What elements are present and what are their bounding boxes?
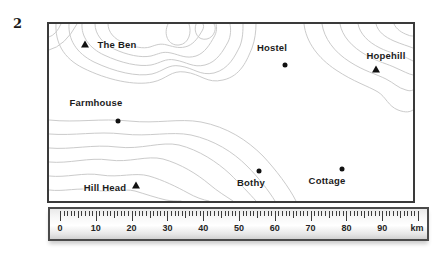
ruler-tick [110,211,111,216]
ruler-tick [268,211,269,216]
ruler-number: 50 [234,223,244,233]
ruler-tick [368,211,369,216]
ruler-number: 80 [341,223,351,233]
site-marker-dot [257,169,262,174]
ruler-unit-label: km [410,223,423,233]
ruler-tick [286,211,287,216]
ruler-tick [289,211,290,216]
ruler-tick [389,211,390,216]
site-marker-triangle [81,41,89,48]
ruler-tick [64,211,65,216]
ruler-tick [235,211,236,216]
ruler-tick [121,211,122,216]
ruler-tick [325,211,326,216]
ruler-tick [160,211,161,216]
ruler-tick [228,211,229,216]
contour-lines [49,24,413,201]
ruler-tick [74,211,75,216]
ruler-tick [314,211,315,216]
ruler-tick [196,211,197,216]
ruler-number: 30 [162,223,172,233]
ruler-tick [200,211,201,216]
ruler-tick [225,211,226,216]
question-number: 2 [13,16,22,31]
ruler-tick [185,211,186,218]
ruler-tick [407,211,408,216]
ruler-tick [178,211,179,216]
ruler-tick [243,211,244,216]
ruler-tick [379,211,380,216]
ruler-tick [103,211,104,216]
ruler-tick [307,211,308,216]
ruler-tick [128,211,129,216]
site-label: Bothy [237,177,265,188]
site-marker-dot [116,119,121,124]
ruler-tick [357,211,358,216]
ruler-tick [153,211,154,216]
ruler-tick [157,211,158,216]
ruler-tick [92,211,93,216]
ruler-number: 0 [57,223,62,233]
ruler-tick [210,211,211,216]
ruler-tick [336,211,337,216]
ruler-tick [99,211,100,216]
site-label: Cottage [309,175,346,186]
site-label: Hill Head [84,182,126,193]
ruler-tick [164,211,165,216]
ruler-tick [150,211,151,218]
ruler-tick [332,211,333,216]
ruler-tick [321,211,322,216]
site-marker-dot [340,167,345,172]
ruler-tick [354,211,355,216]
site-marker-triangle [132,182,140,189]
ruler-tick [182,211,183,216]
site-marker-triangle [372,66,380,73]
ruler-tick [89,211,90,216]
ruler-tick [124,211,125,216]
ruler-tick [142,211,143,216]
ruler-tick [189,211,190,216]
ruler-tick [132,211,133,221]
contour-map: The BenHostelHopehillFarmhouseHill HeadB… [47,22,415,203]
ruler-tick [382,211,383,221]
ruler-tick [78,211,79,218]
ruler-tick [296,211,297,216]
ruler-tick [271,211,272,216]
ruler-tick [264,211,265,216]
site-label: The Ben [98,39,137,50]
ruler-tick [218,211,219,216]
ruler-tick [303,211,304,216]
ruler-tick [404,211,405,216]
ruler-number: 20 [127,223,137,233]
ruler-tick [300,211,301,216]
ruler-number: 60 [270,223,280,233]
ruler-tick [278,211,279,216]
ruler-tick [275,211,276,221]
ruler-tick [257,211,258,218]
ruler-tick [239,211,240,221]
ruler-tick [107,211,108,216]
ruler-tick [221,211,222,218]
worksheet-figure: 2 The BenHoste [0,0,445,253]
ruler-tick [418,211,419,221]
scale-ruler: 0102030405060708090 km [48,207,429,241]
ruler-tick [135,211,136,216]
ruler-tick [411,211,412,216]
ruler-tick [329,211,330,218]
site-label: Hopehill [366,50,405,61]
ruler-tick [60,211,61,221]
ruler-tick [250,211,251,216]
ruler-tick [400,211,401,218]
ruler-tick [71,211,72,216]
ruler-tick [207,211,208,216]
ruler-tick [393,211,394,216]
ruler-tick [364,211,365,218]
ruler-number: 70 [306,223,316,233]
ruler-tick [192,211,193,216]
ruler-tick [386,211,387,216]
site-label: Hostel [257,42,287,53]
ruler-tick [361,211,362,216]
ruler-tick [318,211,319,216]
ruler-tick [282,211,283,216]
ruler-tick [175,211,176,216]
